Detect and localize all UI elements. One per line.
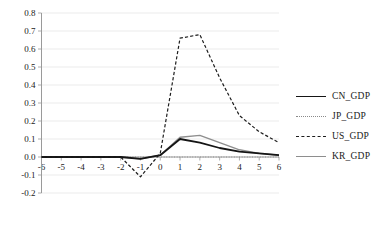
x-tick-label: 2 [198,162,203,172]
y-tick-label: 0.1 [24,134,35,144]
y-tick-label: 0.2 [24,116,35,126]
legend-label-kr-gdp: KR_GDP [332,151,370,161]
plot-area: 0.80.70.60.50.40.30.20.10.0-0.1-0.2 -6-5… [0,0,290,233]
legend-line-icon-kr-gdp [296,156,326,157]
x-tick-label: 3 [217,162,222,172]
y-tick-label: 0.8 [24,8,36,18]
chart-legend: CN_GDP JP_GDP US_GDP KR_GDP [296,86,386,166]
x-tick-label: -3 [97,162,105,172]
legend-item-jp-gdp[interactable]: JP_GDP [296,106,386,126]
y-tick-label: 0.0 [24,152,36,162]
y-tick-label: 0.6 [24,44,36,54]
x-tick-label: -4 [77,162,85,172]
line-chart-svg: 0.80.70.60.50.40.30.20.10.0-0.1-0.2 -6-5… [0,0,290,233]
x-tick-label: -5 [58,162,66,172]
y-tick-label: 0.5 [24,62,36,72]
legend-label-cn-gdp: CN_GDP [332,91,370,101]
legend-item-kr-gdp[interactable]: KR_GDP [296,146,386,166]
legend-item-cn-gdp[interactable]: CN_GDP [296,86,386,106]
x-tick-label: -2 [117,162,125,172]
x-axis-labels: -6-5-4-3-2-10123456 [38,162,282,172]
legend-label-us-gdp: US_GDP [332,131,369,141]
legend-line-icon-jp-gdp [296,116,326,117]
y-tick-label: 0.3 [24,98,36,108]
chart-figure: 0.80.70.60.50.40.30.20.10.0-0.1-0.2 -6-5… [0,0,386,233]
y-axis-labels: 0.80.70.60.50.40.30.20.10.0-0.1-0.2 [21,8,36,198]
legend-label-jp-gdp: JP_GDP [332,111,366,121]
x-tick-label: 5 [257,162,262,172]
x-tick-label: 1 [178,162,183,172]
y-tick-label: 0.4 [24,80,36,90]
legend-item-us-gdp[interactable]: US_GDP [296,126,386,146]
series-paths [42,35,280,177]
x-tick-label: 6 [277,162,282,172]
x-tick-label: -1 [137,162,145,172]
x-tick-label: 4 [237,162,242,172]
y-tick-label: 0.7 [24,26,36,36]
y-tick-label: -0.1 [21,170,35,180]
legend-line-icon-cn-gdp [296,96,326,97]
legend-line-icon-us-gdp [296,136,326,137]
series-line-cn-gdp [42,139,280,159]
x-tick-label: 0 [158,162,163,172]
y-tick-label: -0.2 [21,188,35,198]
